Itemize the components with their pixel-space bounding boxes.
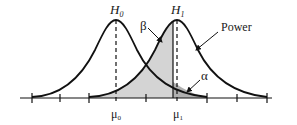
h1-label: H1 [170, 2, 184, 19]
beta-arrow [148, 28, 162, 42]
mu0-label: μ0 [111, 107, 121, 122]
hypothesis-test-diagram: H0 H1 β Power α μ0 μ1 [0, 0, 297, 125]
beta-label: β [140, 18, 147, 33]
power-arrow [196, 32, 218, 50]
beta-region [89, 22, 173, 98]
mu1-label: μ1 [173, 107, 183, 122]
power-label: Power [221, 20, 252, 34]
alpha-arrow [187, 80, 200, 92]
h0-curve [32, 20, 207, 97]
alpha-label: α [201, 68, 208, 83]
h0-label: H0 [109, 2, 123, 19]
